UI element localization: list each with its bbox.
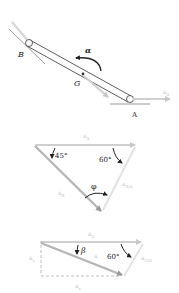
label-point-b: B (17, 50, 24, 59)
rod-edge-bottom (27, 46, 128, 102)
pin-b (26, 40, 33, 47)
angle-60-arc-icon (121, 244, 131, 257)
pin-a (127, 96, 134, 103)
label-a-a: aA (88, 230, 95, 239)
label-beta: β (80, 246, 86, 255)
vector-a-b (35, 146, 101, 211)
alpha-arc-icon (76, 58, 101, 71)
angle-60-arc-icon (113, 148, 122, 163)
kinematics-diagram: aA α B G A aA 45° 60° φ aB aB/A (0, 0, 179, 293)
label-point-a: A (131, 111, 138, 119)
label-a-y: ay (29, 254, 36, 263)
beta-arc-icon (77, 245, 78, 254)
label-point-g: G (74, 79, 81, 88)
acceleration-triangle: aA 45° 60° φ aB aB/A (35, 132, 135, 211)
label-alpha: α (85, 45, 91, 55)
label-angle-60: 60° (107, 253, 119, 261)
rod-edge-top (30, 40, 131, 96)
label-phi: φ (91, 182, 97, 191)
guide-line-b (9, 29, 45, 64)
g-acceleration-diagram: aA β a 60° aG/A ay ax (29, 230, 152, 291)
label-a-ga: aG/A (141, 254, 152, 263)
label-a-a: aA (83, 132, 90, 141)
label-a-x: ax (75, 282, 82, 291)
label-a-ba: aB/A (122, 180, 133, 189)
label-a-b: aB (58, 189, 65, 198)
label-angle-45: 45° (55, 152, 67, 160)
point-g (82, 73, 85, 76)
label-a-a: aA (163, 88, 170, 97)
label-a: a (94, 252, 98, 259)
rod-figure: aA α B G A (9, 22, 170, 119)
accel-vector-g (84, 76, 108, 97)
label-angle-60: 60° (99, 156, 111, 164)
